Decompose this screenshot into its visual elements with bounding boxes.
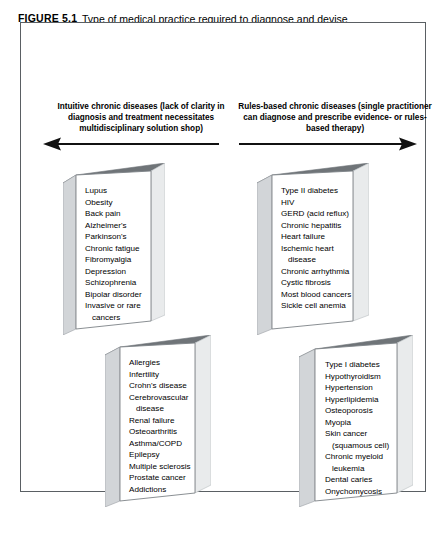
disease-item: (squamous cell): [325, 440, 389, 452]
figure-frame: Intuitive chronic diseases (lack of clar…: [20, 22, 426, 492]
right-upper-box: Type II diabetesHIVGERD (acid reflux)Chr…: [257, 163, 369, 335]
disease-item: Addictions: [129, 484, 191, 496]
right-column-header: Rules-based chronic diseases (single pra…: [237, 101, 433, 135]
disease-item: Chronic myeloid: [325, 451, 389, 463]
disease-item: Renal failure: [129, 415, 191, 427]
disease-item: Chronic fatigue: [85, 243, 142, 255]
disease-item: Fibromyalgia: [85, 254, 142, 266]
right-lower-box: Type I diabetesHypothyroidismHypertensio…: [299, 335, 413, 507]
disease-item: Hypertension: [325, 382, 389, 394]
disease-item: Depression: [85, 266, 142, 278]
disease-item: disease: [281, 254, 351, 266]
disease-item: Hyperlipidemia: [325, 394, 389, 406]
disease-item: Sickle cell anemia: [281, 300, 351, 312]
disease-item: Obesity: [85, 197, 142, 209]
disease-item: Cystic fibrosis: [281, 277, 351, 289]
disease-item: HIV: [281, 197, 351, 209]
disease-item: Bipolar disorder: [85, 289, 142, 301]
disease-item: Invasive or rare: [85, 300, 142, 312]
disease-item: Myopia: [325, 417, 389, 429]
left-arrow-icon: [43, 135, 219, 153]
disease-item: Ischemic heart: [281, 243, 351, 255]
disease-item: Most blood cancers: [281, 289, 351, 301]
disease-item: Multiple sclerosis: [129, 461, 191, 473]
right-arrow-icon: [239, 135, 417, 153]
left-lower-box: AllergiesInfertilityCrohn's diseaseCereb…: [105, 335, 211, 507]
left-upper-box-list: LupusObesityBack painAlzheimer'sParkinso…: [85, 185, 142, 324]
disease-item: Osteoarthritis: [129, 426, 191, 438]
left-upper-box: LupusObesityBack painAlzheimer'sParkinso…: [63, 163, 165, 335]
disease-item: Cerebrovascular: [129, 392, 191, 404]
disease-item: cancers: [85, 312, 142, 324]
disease-item: Osteoporosis: [325, 405, 389, 417]
disease-item: Chronic arrhythmia: [281, 266, 351, 278]
disease-item: Dental caries: [325, 474, 389, 486]
disease-item: Onychomycosis: [325, 486, 389, 498]
disease-item: Allergies: [129, 357, 191, 369]
disease-item: GERD (acid reflux): [281, 208, 351, 220]
right-lower-box-list: Type I diabetesHypothyroidismHypertensio…: [325, 359, 389, 498]
disease-item: Epilepsy: [129, 449, 191, 461]
disease-item: leukemia: [325, 463, 389, 475]
disease-item: disease: [129, 403, 191, 415]
disease-item: Infertility: [129, 369, 191, 381]
disease-item: Prostate cancer: [129, 472, 191, 484]
disease-item: Skin cancer: [325, 428, 389, 440]
disease-item: Crohn's disease: [129, 380, 191, 392]
disease-item: Asthma/COPD: [129, 438, 191, 450]
disease-item: Heart failure: [281, 231, 351, 243]
disease-item: Schizophrenia: [85, 277, 142, 289]
disease-item: Hypothyroidism: [325, 371, 389, 383]
disease-item: Back pain: [85, 208, 142, 220]
disease-item: Chronic hepatitis: [281, 220, 351, 232]
disease-item: Parkinson's: [85, 231, 142, 243]
left-lower-box-list: AllergiesInfertilityCrohn's diseaseCereb…: [129, 357, 191, 496]
disease-item: Type I diabetes: [325, 359, 389, 371]
disease-item: Lupus: [85, 185, 142, 197]
left-column-header: Intuitive chronic diseases (lack of clar…: [43, 101, 239, 135]
disease-item: Alzheimer's: [85, 220, 142, 232]
right-upper-box-list: Type II diabetesHIVGERD (acid reflux)Chr…: [281, 185, 351, 312]
disease-item: Type II diabetes: [281, 185, 351, 197]
